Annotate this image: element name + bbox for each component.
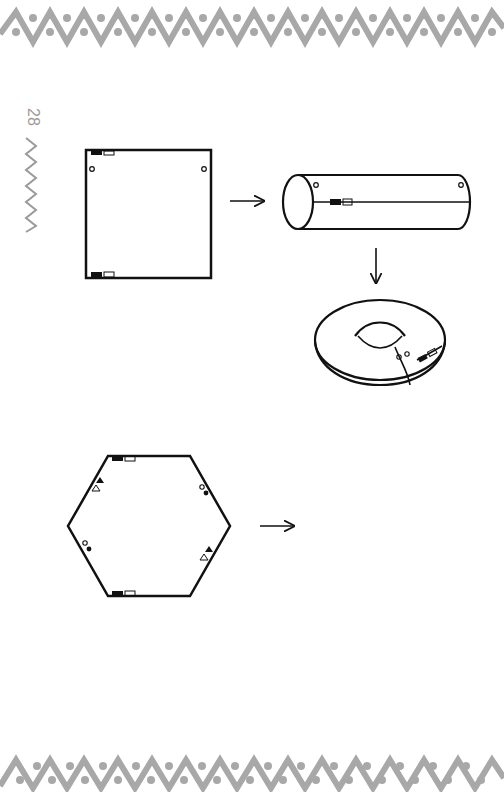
- square-sheet: [86, 150, 211, 278]
- hexagon-sheet: [68, 456, 230, 596]
- diagram-canvas: [0, 0, 504, 792]
- torus: [315, 300, 445, 385]
- bottom-zigzag-border: [0, 742, 504, 792]
- cylinder: [283, 175, 470, 229]
